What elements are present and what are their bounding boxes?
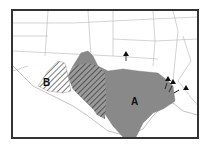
region-overlap: [68, 63, 106, 119]
region-b-label: B: [43, 77, 50, 88]
triangle-marker-icon: [165, 76, 171, 81]
map-svg: [13, 11, 199, 139]
triangle-marker-icon: [123, 51, 129, 56]
map-frame: B A: [11, 9, 199, 139]
region-a-label: A: [131, 96, 138, 107]
triangle-marker-icon: [183, 85, 189, 90]
triangle-marker-icon: [170, 79, 176, 84]
